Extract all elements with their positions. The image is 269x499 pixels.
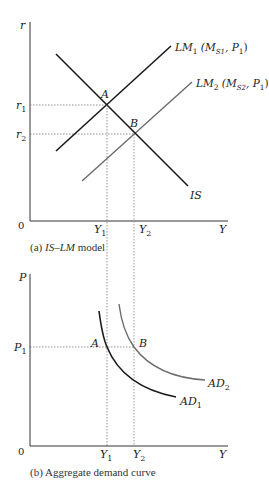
tick-r1: r1 bbox=[16, 99, 26, 114]
point-b-label: B bbox=[129, 117, 138, 130]
tick-y2-b: Y2 bbox=[133, 448, 145, 463]
tick-p1: P1 bbox=[13, 341, 27, 356]
curve-ad1 bbox=[99, 311, 176, 397]
panel-is-lm: r 0 Y r1 r2 Y1 Y2 A B LM1 (MS1, P1) LM2 … bbox=[16, 19, 269, 254]
caption-panel-b: (b) Aggregate demand curve bbox=[30, 466, 156, 479]
label-ad2: AD2 bbox=[207, 377, 230, 392]
tick-y1-b: Y1 bbox=[100, 448, 112, 463]
tick-y2: Y2 bbox=[139, 223, 151, 238]
y-axis-label-p: P bbox=[18, 271, 27, 284]
curve-lm1 bbox=[56, 46, 171, 151]
label-lm1: LM1 (MS1, P1) bbox=[174, 41, 248, 56]
curve-is bbox=[56, 54, 188, 186]
curve-ad2 bbox=[119, 304, 205, 380]
caption-panel-a: (a) IS–LM model bbox=[30, 241, 105, 254]
tick-r2: r2 bbox=[16, 128, 26, 143]
y-axis-label: r bbox=[20, 19, 26, 32]
label-is: IS bbox=[189, 189, 202, 202]
origin-label: 0 bbox=[18, 220, 24, 231]
tick-y1: Y1 bbox=[94, 223, 106, 238]
point-a-label: A bbox=[100, 88, 109, 101]
is-lm-ad-diagram: r 0 Y r1 r2 Y1 Y2 A B LM1 (MS1, P1) LM2 … bbox=[0, 0, 269, 499]
point-a-label-b: A bbox=[90, 337, 99, 350]
x-axis-label: Y bbox=[219, 223, 228, 236]
origin-label-b: 0 bbox=[18, 446, 24, 457]
panel-aggregate-demand: P 0 Y P1 Y1 Y2 A B AD2 AD1 (b) Aggregate… bbox=[13, 271, 230, 479]
x-axis-label-b: Y bbox=[219, 448, 228, 461]
point-b-label-b: B bbox=[138, 337, 147, 350]
label-lm2: LM2 (MS2, P1) bbox=[195, 77, 269, 92]
label-ad1: AD1 bbox=[179, 395, 202, 410]
